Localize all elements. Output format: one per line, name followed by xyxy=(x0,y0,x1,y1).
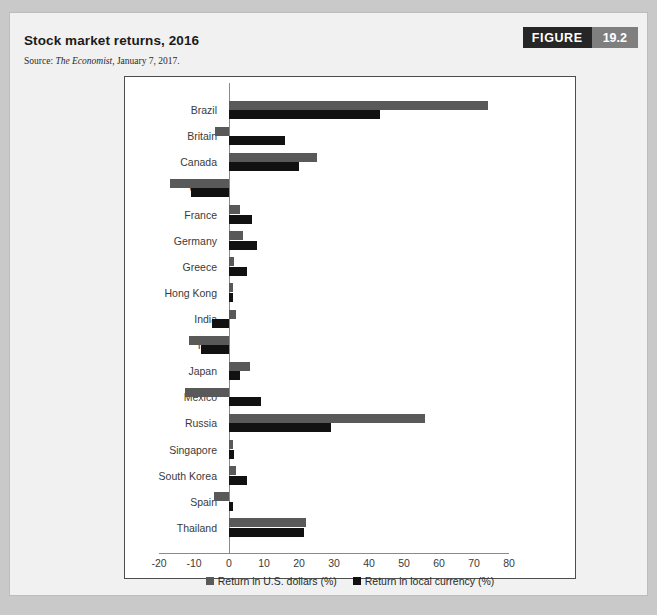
source-prefix: Source: xyxy=(24,56,55,66)
bar-spain-usd xyxy=(214,492,229,501)
x-tick-label-10: 10 xyxy=(258,557,270,569)
category-label-russia: Russia xyxy=(111,417,223,429)
bar-france-local xyxy=(229,215,252,224)
bar-hong-kong-local xyxy=(229,293,233,302)
legend-label: Return in local currency (%) xyxy=(365,575,495,587)
x-tick-label--10: -10 xyxy=(186,557,201,569)
category-label-greece: Greece xyxy=(111,261,223,273)
figure-badge-number: 19.2 xyxy=(592,27,638,48)
bar-russia-local xyxy=(229,423,331,432)
x-tick-label-0: 0 xyxy=(226,557,232,569)
source-publication: The Economist xyxy=(55,56,112,66)
legend-swatch-icon-usd xyxy=(206,577,214,585)
chart-plot-frame: BrazilBritainCanadaChinaFranceGermanyGre… xyxy=(124,76,576,579)
category-label-germany: Germany xyxy=(111,235,223,247)
category-label-spain: Spain xyxy=(111,496,223,508)
x-tick-label-50: 50 xyxy=(398,557,410,569)
bar-brazil-local xyxy=(229,110,380,119)
figure-card: Stock market returns, 2016 Source: The E… xyxy=(9,12,648,596)
x-tick-label-70: 70 xyxy=(468,557,480,569)
page-title: Stock market returns, 2016 xyxy=(24,33,199,48)
x-tick-label--20: -20 xyxy=(151,557,166,569)
category-label-japan: Japan xyxy=(111,365,223,377)
bar-france-usd xyxy=(229,205,240,214)
bar-britain-local xyxy=(229,136,285,145)
bar-thailand-usd xyxy=(229,518,306,527)
bar-singapore-usd xyxy=(229,440,233,449)
x-tick-label-60: 60 xyxy=(433,557,445,569)
bar-russia-usd xyxy=(229,414,425,423)
bar-hong-kong-usd xyxy=(229,283,233,292)
bar-india-local xyxy=(212,319,230,328)
figure-source: Source: The Economist, January 7, 2017. xyxy=(24,56,180,66)
bar-germany-usd xyxy=(229,231,243,240)
legend-label: Return in U.S. dollars (%) xyxy=(218,575,337,587)
bar-mexico-usd xyxy=(185,388,229,397)
category-label-canada: Canada xyxy=(111,156,223,168)
category-label-singapore: Singapore xyxy=(111,444,223,456)
source-suffix: , January 7, 2017. xyxy=(112,56,180,66)
bar-canada-local xyxy=(229,162,299,171)
bar-britain-usd xyxy=(215,127,229,136)
bar-spain-local xyxy=(229,502,233,511)
bar-china-usd xyxy=(170,179,230,188)
bar-singapore-local xyxy=(229,450,234,459)
category-label-south-korea: South Korea xyxy=(111,470,223,482)
figure-badge-label: FIGURE xyxy=(523,27,592,48)
bar-italy-local xyxy=(201,345,229,354)
bar-china-local xyxy=(191,188,230,197)
x-tick-label-80: 80 xyxy=(503,557,515,569)
bar-south-korea-local xyxy=(229,476,247,485)
bar-canada-usd xyxy=(229,153,317,162)
figure-badge: FIGURE 19.2 xyxy=(523,27,638,48)
x-tick-label-30: 30 xyxy=(328,557,340,569)
bar-greece-usd xyxy=(229,257,234,266)
x-axis-line xyxy=(159,553,509,554)
bar-greece-local xyxy=(229,267,247,276)
legend-swatch-icon-local xyxy=(353,577,361,585)
legend-item-usd: Return in U.S. dollars (%) xyxy=(206,575,337,587)
category-label-france: France xyxy=(111,209,223,221)
bar-japan-local xyxy=(229,371,240,380)
category-label-brazil: Brazil xyxy=(111,104,223,116)
bar-india-usd xyxy=(229,310,236,319)
legend-item-local: Return in local currency (%) xyxy=(353,575,495,587)
category-label-britain: Britain xyxy=(111,130,223,142)
bar-mexico-local xyxy=(229,397,261,406)
x-tick-label-40: 40 xyxy=(363,557,375,569)
bar-thailand-local xyxy=(229,528,304,537)
figure-screenshot: Stock market returns, 2016 Source: The E… xyxy=(0,0,657,615)
category-label-thailand: Thailand xyxy=(111,522,223,534)
bar-germany-local xyxy=(229,241,257,250)
bar-italy-usd xyxy=(189,336,229,345)
category-label-hong-kong: Hong Kong xyxy=(111,287,223,299)
bar-brazil-usd xyxy=(229,101,488,110)
x-tick-label-20: 20 xyxy=(293,557,305,569)
bar-south-korea-usd xyxy=(229,466,236,475)
chart-legend: Return in U.S. dollars (%)Return in loca… xyxy=(125,575,575,587)
bar-japan-usd xyxy=(229,362,250,371)
chart-plot-area: BrazilBritainCanadaChinaFranceGermanyGre… xyxy=(125,77,575,578)
category-label-india: India xyxy=(111,313,223,325)
